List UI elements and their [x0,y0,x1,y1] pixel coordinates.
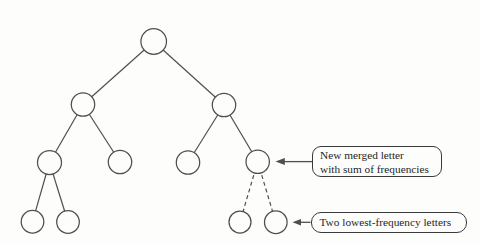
tree-node-merged [246,150,269,173]
callout-text-line: New merged letter [320,148,441,162]
tree-canvas [0,0,480,245]
tree-edges [33,42,276,223]
merged-letter-callout: New merged letter with sum of frequencie… [312,146,442,177]
tree-node-lowest-a [229,211,251,233]
tree-node-leaf-b [57,211,80,234]
tree-nodes-fill-group [21,29,287,234]
tree-edge [154,42,224,106]
tree-node-left-left [38,151,62,175]
tree-node-lowest-b [265,211,288,234]
tree-node-right [212,93,235,116]
callout-text-line: with sum of frequencies [320,162,441,176]
tree-node-left-right [108,150,131,173]
tree-node-leaf-a [21,210,44,233]
left-arrowhead-icon [293,219,302,226]
tree-edge [83,42,154,105]
callout-text-line: Two lowest-frequency letters [320,213,466,232]
tree-node-root [141,29,167,55]
left-arrowhead-icon [276,158,285,165]
lowest-frequency-callout: Two lowest-frequency letters [311,212,467,233]
huffman-tree-figure: New merged letter with sum of frequencie… [0,0,480,245]
tree-nodes [21,29,287,234]
tree-node-right-left [176,151,199,174]
tree-node-left [71,93,94,116]
